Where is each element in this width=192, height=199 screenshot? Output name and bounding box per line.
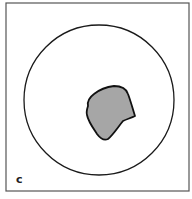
diagram-figure — [0, 0, 192, 199]
panel-label: c — [16, 173, 23, 186]
